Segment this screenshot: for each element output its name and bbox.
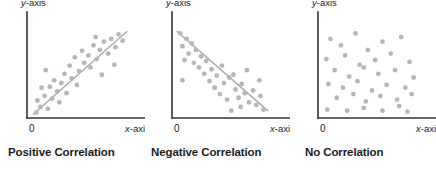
data-point [397, 104, 402, 109]
data-point [236, 95, 241, 100]
data-point [361, 105, 366, 110]
data-point [186, 51, 191, 56]
data-point [325, 107, 330, 112]
data-point [45, 106, 50, 111]
data-point [399, 35, 404, 40]
data-point [113, 45, 118, 50]
data-point [112, 62, 117, 67]
data-point [47, 84, 52, 89]
data-point [217, 92, 222, 97]
data-point [242, 91, 247, 96]
data-point [212, 85, 217, 90]
panel-positive-correlation: y-axisx-axis0 Positive Correlation [0, 0, 145, 172]
data-point [227, 75, 232, 80]
data-point [388, 51, 393, 56]
data-point [239, 82, 244, 87]
data-point [231, 72, 236, 77]
data-point [209, 67, 214, 72]
data-point [42, 94, 47, 99]
data-point [229, 108, 234, 113]
y-axis-label: y-axis [311, 0, 337, 8]
data-point [334, 95, 339, 100]
data-point [184, 36, 189, 41]
data-point [373, 58, 378, 63]
data-point [72, 55, 77, 60]
x-axis-label: x-axis [269, 123, 290, 134]
data-point [67, 63, 72, 68]
data-point [341, 85, 346, 90]
data-point [189, 41, 194, 46]
data-point [82, 60, 87, 65]
data-point [64, 91, 69, 96]
data-point [351, 92, 356, 97]
origin-label: 0 [320, 123, 326, 134]
x-axis-label: x-axis [415, 123, 436, 134]
data-point [57, 100, 62, 105]
data-point [332, 68, 337, 73]
data-point [182, 58, 187, 63]
data-point [93, 35, 98, 40]
data-point [251, 88, 256, 93]
data-point [59, 81, 64, 86]
data-point [88, 65, 93, 70]
data-point [69, 76, 74, 81]
data-point [366, 48, 371, 53]
data-point [328, 36, 333, 41]
data-point [233, 87, 238, 92]
data-point [180, 44, 185, 49]
data-point [409, 92, 414, 97]
data-point [324, 57, 329, 62]
data-point [343, 53, 348, 58]
data-point [378, 94, 383, 99]
data-point [178, 31, 183, 36]
data-point [80, 48, 85, 53]
data-point [214, 73, 219, 78]
data-point [380, 108, 385, 113]
correlation-figure: y-axisx-axis0 Positive Correlation y-axi… [0, 0, 436, 172]
data-point [180, 78, 185, 83]
data-point [376, 71, 381, 76]
origin-label: 0 [29, 123, 35, 134]
data-point [35, 98, 40, 103]
data-point [75, 82, 80, 87]
data-point [91, 43, 96, 48]
data-point [191, 60, 196, 65]
data-point [338, 43, 343, 48]
data-point [357, 62, 362, 67]
data-point [407, 59, 412, 64]
data-point [353, 31, 358, 36]
data-point [355, 79, 360, 84]
plot-canvas-1: y-axisx-axis0 [165, 0, 290, 134]
panel-caption-positive: Positive Correlation [8, 146, 153, 158]
data-point [405, 109, 410, 114]
data-point [106, 51, 111, 56]
data-point [345, 108, 350, 113]
x-axis-label: x-axis [124, 123, 145, 134]
data-point [120, 38, 125, 43]
data-point [393, 68, 398, 73]
data-point [102, 39, 107, 44]
data-point [257, 78, 262, 83]
data-point [395, 97, 400, 102]
data-point [220, 63, 225, 68]
data-point [261, 107, 266, 112]
origin-label: 0 [174, 123, 180, 134]
y-axis-label: y-axis [20, 0, 46, 8]
data-point [411, 75, 416, 80]
data-point [222, 81, 227, 86]
data-point [116, 32, 121, 37]
scatter-svg-none: y-axisx-axis0 [291, 0, 436, 140]
data-point [97, 48, 102, 53]
panel-negative-correlation: y-axisx-axis0 Negative Correlation [145, 0, 290, 172]
scatter-svg-negative: y-axisx-axis0 [145, 0, 290, 140]
data-point [50, 96, 55, 101]
data-point [52, 78, 57, 83]
data-point [202, 71, 207, 76]
data-point [247, 100, 252, 105]
panel-caption-negative: Negative Correlation [151, 146, 296, 158]
data-point [197, 65, 202, 70]
data-point [199, 54, 204, 59]
data-point [225, 97, 230, 102]
data-point [347, 74, 352, 79]
plot-canvas-0: y-axisx-axis0 [20, 0, 145, 134]
